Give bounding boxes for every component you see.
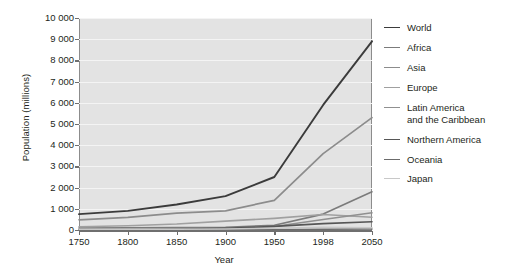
x-tick-label: 1850 — [166, 236, 187, 247]
x-tick-label: 1998 — [313, 236, 334, 247]
y-tick-label: 6 000 — [50, 98, 74, 108]
y-tick-label: 1 000 — [50, 204, 74, 214]
y-tick-label: 5 000 — [50, 119, 74, 129]
y-tick-mark — [75, 82, 79, 83]
x-tick-label: 1900 — [215, 236, 236, 247]
x-tick-mark — [226, 231, 227, 235]
x-tick-mark — [274, 231, 275, 235]
legend-item-label: Oceania — [407, 154, 442, 166]
y-tick-mark — [75, 188, 79, 189]
y-tick-label: 4 000 — [50, 140, 74, 150]
x-tick-mark — [79, 231, 80, 235]
legend-item[interactable]: Northern America — [384, 134, 512, 146]
legend-item-label: Europe — [407, 82, 438, 94]
y-tick-label: 0 — [69, 225, 74, 235]
x-tick-label: 1750 — [68, 236, 89, 247]
y-tick-label: 3 000 — [50, 161, 74, 171]
x-tick-label: 1950 — [264, 236, 285, 247]
legend-item-label: Asia — [407, 62, 425, 74]
legend-item[interactable]: Latin America and the Caribbean — [384, 102, 512, 125]
y-axis-ticks: 01 0002 0003 0004 0005 0006 0007 0008 00… — [0, 0, 74, 275]
y-tick-label: 10 000 — [45, 13, 74, 23]
legend-line-swatch — [384, 87, 400, 88]
y-tick-mark — [75, 39, 79, 40]
x-axis-title: Year — [75, 254, 373, 265]
legend-item-label: Japan — [407, 173, 433, 185]
legend-line-swatch — [384, 67, 400, 68]
y-tick-mark — [75, 166, 79, 167]
series-line — [79, 215, 372, 227]
x-tick-label: 1800 — [117, 236, 138, 247]
y-tick-mark — [75, 103, 79, 104]
y-tick-label: 9 000 — [50, 34, 74, 44]
x-tick-mark — [372, 231, 373, 235]
y-tick-mark — [75, 145, 79, 146]
plot-area — [79, 18, 372, 230]
x-tick-label: 2050 — [361, 236, 382, 247]
legend-item[interactable]: Asia — [384, 62, 512, 74]
series-lines — [79, 18, 372, 230]
legend-line-swatch — [384, 178, 400, 179]
legend-line-swatch — [384, 47, 400, 48]
y-tick-label: 8 000 — [50, 55, 74, 65]
y-tick-mark — [75, 124, 79, 125]
y-tick-label: 2 000 — [50, 183, 74, 193]
y-tick-mark — [75, 18, 79, 19]
legend-item[interactable]: World — [384, 22, 512, 34]
legend-item-label: World — [407, 22, 432, 34]
legend-item[interactable]: Europe — [384, 82, 512, 94]
x-tick-mark — [177, 231, 178, 235]
legend-item-label: Northern America — [407, 134, 481, 146]
legend-item-label: Latin America and the Caribbean — [407, 102, 485, 125]
x-tick-mark — [323, 231, 324, 235]
chart-legend: WorldAfricaAsiaEuropeLatin America and t… — [384, 22, 512, 193]
legend-item-label: Africa — [407, 42, 431, 54]
legend-line-swatch — [384, 139, 400, 140]
legend-line-swatch — [384, 27, 400, 28]
legend-line-swatch — [384, 107, 400, 108]
legend-item[interactable]: Japan — [384, 173, 512, 185]
legend-item[interactable]: Africa — [384, 42, 512, 54]
y-tick-mark — [75, 60, 79, 61]
legend-item[interactable]: Oceania — [384, 154, 512, 166]
x-tick-mark — [128, 231, 129, 235]
series-line — [79, 41, 372, 214]
y-tick-label: 7 000 — [50, 77, 74, 87]
series-line — [79, 118, 372, 220]
legend-line-swatch — [384, 159, 400, 160]
population-line-chart: Population (millions) 01 0002 0003 0004 … — [0, 0, 514, 275]
y-tick-mark — [75, 209, 79, 210]
